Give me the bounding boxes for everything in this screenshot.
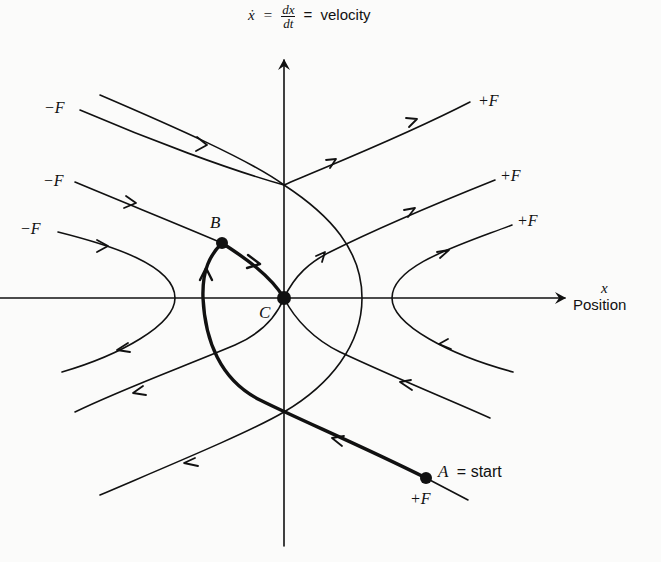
point-a-annotation: = start [457,463,502,480]
force-label-right-3: +F [517,212,538,230]
point-b-marker [216,237,228,249]
direction-arrows [97,118,451,466]
trajectory-top [80,102,470,185]
y-axis-eq2: = [304,6,313,23]
arrow-icon [400,380,412,390]
point-a-label: A = start [438,462,502,482]
point-a-name: A [438,462,448,481]
diagram-canvas [0,0,661,562]
y-axis-symbol: ẋ [248,7,255,23]
point-c-marker [277,291,291,305]
x-axis-word: Position [573,296,626,313]
arrow-icon [196,137,207,151]
force-label-left-1: −F [44,99,65,117]
trajectory-upper-left-mid [75,182,222,243]
force-label-right-1: +F [478,92,499,110]
separatrix-right [100,95,362,495]
force-label-left-3: −F [20,220,41,238]
arrow-icon [406,118,417,127]
arrow-icon [133,386,146,395]
arrow-icon [184,458,198,466]
y-axis-label: ẋ = dx dt = velocity [248,3,371,30]
y-axis-fraction: dx dt [281,3,295,30]
fraction-denominator: dt [283,17,293,30]
force-label-bottom: +F [410,490,431,508]
y-axis-eq1: = [263,7,273,23]
x-axis-symbol: x [601,280,608,297]
force-label-right-2: +F [500,167,521,185]
phase-plane-diagram: ẋ = dx dt = velocity x Position B C A = … [0,0,661,562]
arrow-icon [97,240,108,252]
point-a-marker [420,472,432,484]
fraction-numerator: dx [281,3,295,17]
trajectory-c-up-right [284,180,495,298]
trajectory-left-loop [58,232,175,372]
force-label-left-2: −F [43,172,64,190]
trajectory-c-down-right [284,298,490,418]
point-c-label: C [259,303,270,323]
trajectory-b-to-c [222,243,284,298]
point-b-label: B [210,213,220,233]
arrow-icon [404,208,415,217]
trajectory-a-to-b [203,243,426,478]
y-axis-word: velocity [321,6,371,23]
